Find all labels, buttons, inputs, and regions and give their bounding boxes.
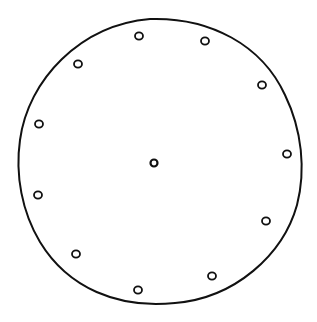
clock-outline xyxy=(18,19,301,304)
hour-mark xyxy=(74,60,82,67)
hour-mark xyxy=(208,272,216,279)
hour-mark xyxy=(72,250,80,257)
clock-drawing xyxy=(0,0,317,322)
hour-mark xyxy=(134,286,142,293)
hour-mark xyxy=(34,191,42,198)
hour-mark xyxy=(262,217,270,224)
hour-mark xyxy=(135,32,143,39)
hour-mark xyxy=(201,37,209,44)
center-mark xyxy=(151,160,158,167)
hour-mark xyxy=(283,150,291,157)
hour-marks xyxy=(34,32,291,293)
hour-mark xyxy=(35,120,43,127)
hour-mark xyxy=(258,81,266,88)
